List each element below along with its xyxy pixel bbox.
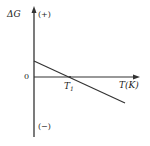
positive-label: (+): [38, 11, 51, 19]
negative-label: (−): [38, 123, 51, 131]
t1-label-sub: 1: [70, 85, 74, 92]
delta-g-line: [34, 61, 125, 103]
t1-label: T1: [64, 82, 74, 92]
x-axis-arrow-icon: [133, 75, 140, 80]
origin-label: 0: [24, 73, 29, 81]
diagram-canvas: [0, 0, 150, 146]
y-axis-label: ΔG: [7, 10, 21, 19]
x-axis-label: T(K): [119, 81, 139, 90]
t1-intercept-point: [69, 76, 71, 78]
y-axis-arrow-icon: [32, 6, 37, 13]
